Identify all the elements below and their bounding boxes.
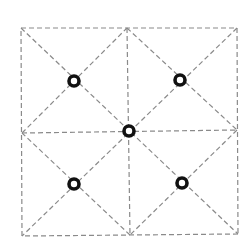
node-bottom-right	[177, 178, 187, 188]
edge-left	[21, 28, 22, 236]
node-top-left	[69, 76, 79, 86]
node-center	[124, 126, 134, 136]
node-bottom-left	[69, 179, 79, 189]
edge-right	[237, 28, 238, 234]
node-top-right	[175, 75, 185, 85]
grid-diagram	[0, 0, 251, 242]
